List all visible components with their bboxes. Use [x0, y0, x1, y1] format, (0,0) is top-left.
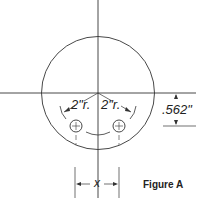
spacing-dimension-label: x — [94, 176, 100, 190]
figure-caption: Figure A — [143, 179, 183, 190]
offset-dimension-label: .562" — [162, 102, 192, 117]
radius-label-right: 2"r. — [101, 97, 120, 112]
technical-drawing: 2"r. 2"r. .562" x Figure A — [0, 0, 202, 205]
radius-label-left: 2"r. — [71, 97, 90, 112]
